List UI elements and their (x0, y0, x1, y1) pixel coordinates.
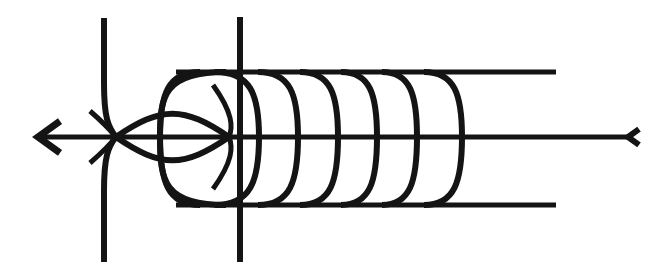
curve-family-figure (0, 0, 653, 277)
diagram-canvas (0, 0, 653, 277)
